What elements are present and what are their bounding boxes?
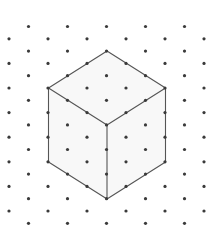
grid-dot	[7, 86, 10, 89]
grid-dot	[7, 185, 10, 188]
grid-dot	[202, 62, 205, 65]
grid-dot	[183, 197, 186, 200]
grid-dot	[105, 197, 108, 200]
grid-dot	[105, 173, 108, 176]
grid-dot	[27, 197, 30, 200]
grid-dot	[105, 50, 108, 53]
grid-dot	[85, 160, 88, 163]
grid-dot	[46, 160, 49, 163]
grid-dot	[85, 111, 88, 114]
grid-dot	[27, 50, 30, 53]
grid-dot	[66, 25, 69, 28]
grid-dot	[163, 86, 166, 89]
grid-dot	[85, 37, 88, 40]
grid-dot	[105, 74, 108, 77]
grid-dot	[202, 160, 205, 163]
grid-dot	[202, 185, 205, 188]
grid-dot	[66, 148, 69, 151]
grid-dot	[7, 37, 10, 40]
diagram-canvas	[0, 0, 215, 233]
grid-dot	[124, 160, 127, 163]
grid-dot	[124, 209, 127, 212]
grid-dot	[66, 50, 69, 53]
grid-dot	[46, 37, 49, 40]
grid-dot	[105, 99, 108, 102]
grid-dot	[85, 185, 88, 188]
grid-dot	[66, 173, 69, 176]
grid-dot	[144, 197, 147, 200]
grid-dot	[46, 185, 49, 188]
grid-dot	[144, 173, 147, 176]
grid-dot	[27, 222, 30, 225]
grid-dot	[163, 62, 166, 65]
grid-dot	[27, 74, 30, 77]
grid-dot	[85, 62, 88, 65]
grid-dot	[202, 209, 205, 212]
grid-dot	[183, 148, 186, 151]
grid-dot	[202, 86, 205, 89]
grid-dot	[66, 74, 69, 77]
grid-dot	[163, 37, 166, 40]
grid-dot	[202, 136, 205, 139]
grid-dot	[7, 111, 10, 114]
grid-dot	[163, 111, 166, 114]
grid-dot	[144, 148, 147, 151]
grid-dot	[202, 37, 205, 40]
grid-dot	[144, 222, 147, 225]
grid-dot	[144, 123, 147, 126]
grid-dot	[105, 222, 108, 225]
grid-dot	[27, 173, 30, 176]
grid-dot	[202, 111, 205, 114]
grid-dot	[7, 136, 10, 139]
grid-dot	[163, 136, 166, 139]
grid-dot	[46, 209, 49, 212]
grid-dot	[27, 148, 30, 151]
grid-dot	[85, 136, 88, 139]
grid-dot	[66, 197, 69, 200]
grid-dot	[7, 160, 10, 163]
grid-dot	[27, 99, 30, 102]
grid-dot	[46, 86, 49, 89]
grid-dot	[46, 62, 49, 65]
grid-dot	[183, 50, 186, 53]
grid-dot	[124, 86, 127, 89]
grid-dot	[163, 185, 166, 188]
grid-dot	[144, 50, 147, 53]
isometric-cube-diagram	[0, 0, 215, 233]
grid-dot	[124, 62, 127, 65]
grid-dot	[144, 99, 147, 102]
grid-dot	[183, 173, 186, 176]
grid-dot	[124, 37, 127, 40]
grid-dot	[105, 25, 108, 28]
grid-dot	[144, 25, 147, 28]
grid-dot	[105, 123, 108, 126]
grid-dot	[163, 209, 166, 212]
grid-dot	[7, 209, 10, 212]
grid-dot	[124, 111, 127, 114]
grid-dot	[27, 123, 30, 126]
grid-dot	[27, 25, 30, 28]
grid-dot	[124, 136, 127, 139]
grid-dot	[124, 185, 127, 188]
grid-dot	[66, 123, 69, 126]
grid-dot	[66, 99, 69, 102]
grid-dot	[85, 86, 88, 89]
grid-dot	[7, 62, 10, 65]
grid-dot	[85, 209, 88, 212]
grid-dot	[183, 222, 186, 225]
grid-dot	[163, 160, 166, 163]
grid-dot	[66, 222, 69, 225]
grid-dot	[183, 25, 186, 28]
grid-dot	[144, 74, 147, 77]
grid-dot	[183, 99, 186, 102]
grid-dot	[105, 148, 108, 151]
grid-dot	[46, 136, 49, 139]
grid-dot	[46, 111, 49, 114]
grid-dot	[183, 123, 186, 126]
grid-dot	[183, 74, 186, 77]
